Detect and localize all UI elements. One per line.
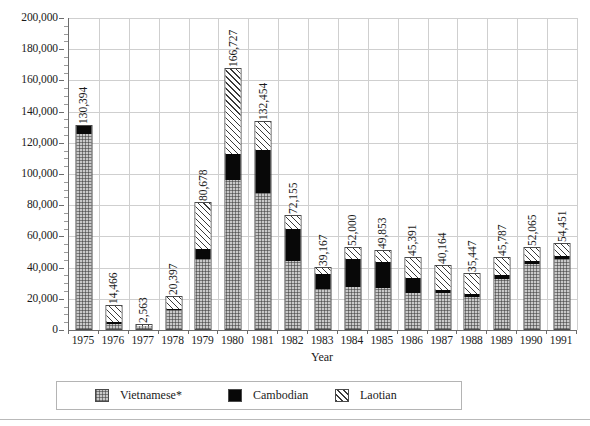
x-axis-tick-mark bbox=[516, 330, 517, 334]
y-axis-tick-label: 200,000 bbox=[21, 12, 58, 24]
bar-value-label: 49,853 bbox=[377, 218, 388, 250]
bar-segment-laotian[interactable] bbox=[345, 248, 360, 259]
bar-segment-vietnamese[interactable] bbox=[286, 261, 301, 329]
bar-segment-laotian[interactable] bbox=[525, 248, 540, 261]
bar-value-label: 166,727 bbox=[228, 30, 239, 67]
x-axis-tick-label: 1991 bbox=[550, 334, 573, 347]
bar-segment-vietnamese[interactable] bbox=[435, 293, 450, 330]
bar-segment-laotian[interactable] bbox=[375, 251, 390, 262]
bar-stack[interactable] bbox=[494, 257, 511, 330]
bar-segment-laotian[interactable] bbox=[106, 306, 121, 322]
bar-stack[interactable] bbox=[75, 125, 92, 330]
bar-segment-vietnamese[interactable] bbox=[196, 259, 211, 329]
bar-group[interactable] bbox=[428, 18, 458, 330]
bar-segment-vietnamese[interactable] bbox=[405, 293, 420, 329]
bar-stack[interactable] bbox=[255, 121, 272, 330]
plot-area: 130,39414,4662,56320,39780,678166,727132… bbox=[68, 18, 577, 331]
bar-segment-cambodian[interactable] bbox=[196, 249, 211, 259]
bar-segment-vietnamese[interactable] bbox=[136, 326, 151, 329]
bar-value-label: 2,563 bbox=[138, 297, 149, 323]
legend-item[interactable]: Vietnamese* bbox=[95, 389, 182, 402]
x-axis-tick-mark bbox=[456, 330, 457, 334]
y-axis-tick-label: 60,000 bbox=[27, 231, 58, 243]
legend-item[interactable]: Cambodian bbox=[228, 389, 308, 402]
bar-stack[interactable] bbox=[314, 267, 331, 330]
bar-segment-vietnamese[interactable] bbox=[375, 288, 390, 329]
bar-segment-vietnamese[interactable] bbox=[555, 259, 570, 330]
bar-segment-vietnamese[interactable] bbox=[465, 297, 480, 329]
bar-segment-vietnamese[interactable] bbox=[495, 279, 510, 329]
bar-segment-vietnamese[interactable] bbox=[226, 180, 241, 329]
legend-swatch-laotian bbox=[335, 389, 349, 402]
bar-stack[interactable] bbox=[344, 247, 361, 330]
bar-stack[interactable] bbox=[554, 243, 571, 330]
bar-segment-vietnamese[interactable] bbox=[106, 324, 121, 329]
bar-segment-cambodian[interactable] bbox=[315, 274, 330, 289]
bar-segment-vietnamese[interactable] bbox=[345, 287, 360, 329]
x-axis-tick-label: 1976 bbox=[102, 334, 125, 347]
bar-segment-laotian[interactable] bbox=[555, 244, 570, 256]
bar-segment-vietnamese[interactable] bbox=[315, 289, 330, 329]
bar-segment-laotian[interactable] bbox=[196, 203, 211, 249]
bar-stack[interactable] bbox=[285, 215, 302, 330]
bar-stack[interactable] bbox=[195, 202, 212, 330]
bar-value-label: 20,397 bbox=[168, 264, 179, 296]
bar-segment-laotian[interactable] bbox=[286, 216, 301, 229]
bar-segment-laotian[interactable] bbox=[226, 69, 241, 154]
gridline-vertical bbox=[577, 18, 578, 330]
bar-group[interactable] bbox=[457, 18, 487, 330]
x-axis-tick-mark bbox=[188, 330, 189, 334]
bar-group[interactable] bbox=[517, 18, 547, 330]
bar-segment-cambodian[interactable] bbox=[345, 259, 360, 286]
bar-stack[interactable] bbox=[434, 265, 451, 330]
bar-stack[interactable] bbox=[165, 296, 182, 330]
x-axis-tick-mark bbox=[576, 330, 577, 334]
bar-segment-cambodian[interactable] bbox=[286, 229, 301, 261]
bar-segment-laotian[interactable] bbox=[495, 258, 510, 276]
bar-value-label: 14,466 bbox=[108, 273, 119, 305]
x-axis-tick-mark bbox=[337, 330, 338, 334]
bar-group[interactable] bbox=[278, 18, 308, 330]
bar-segment-laotian[interactable] bbox=[405, 258, 420, 278]
bar-segment-vietnamese[interactable] bbox=[256, 193, 271, 329]
bar-group[interactable] bbox=[308, 18, 338, 330]
bar-value-label: 54,451 bbox=[557, 210, 568, 242]
x-axis-tick-label: 1983 bbox=[311, 334, 334, 347]
bar-segment-cambodian[interactable] bbox=[76, 126, 91, 134]
bar-segment-vietnamese[interactable] bbox=[76, 134, 91, 329]
x-axis-tick-mark bbox=[367, 330, 368, 334]
x-axis-tick-mark bbox=[486, 330, 487, 334]
bar-stack[interactable] bbox=[105, 305, 122, 330]
bar-segment-vietnamese[interactable] bbox=[166, 310, 181, 329]
bar-stack[interactable] bbox=[404, 257, 421, 330]
bar-group[interactable] bbox=[129, 18, 159, 330]
x-axis-tick-mark bbox=[277, 330, 278, 334]
bar-group[interactable] bbox=[398, 18, 428, 330]
bar-segment-laotian[interactable] bbox=[166, 297, 181, 308]
bar-segment-cambodian[interactable] bbox=[405, 278, 420, 293]
bar-group[interactable] bbox=[248, 18, 278, 330]
y-axis-tick-label: 20,000 bbox=[27, 293, 58, 305]
bar-value-label: 132,454 bbox=[258, 83, 269, 120]
bar-segment-laotian[interactable] bbox=[435, 266, 450, 289]
bar-stack[interactable] bbox=[464, 273, 481, 330]
bar-group[interactable] bbox=[368, 18, 398, 330]
bar-segment-laotian[interactable] bbox=[465, 274, 480, 294]
bar-segment-vietnamese[interactable] bbox=[525, 264, 540, 329]
bar-segment-laotian[interactable] bbox=[256, 122, 271, 150]
bar-segment-cambodian[interactable] bbox=[226, 154, 241, 181]
bar-segment-cambodian[interactable] bbox=[256, 150, 271, 193]
chart-legend: Vietnamese*CambodianLaotian bbox=[56, 381, 462, 410]
bar-stack[interactable] bbox=[374, 250, 391, 330]
bar-stack[interactable] bbox=[135, 324, 152, 330]
y-axis-tick-mark bbox=[59, 80, 64, 81]
bar-group[interactable] bbox=[487, 18, 517, 330]
bar-segment-cambodian[interactable] bbox=[375, 262, 390, 288]
y-axis-tick-label: 120,000 bbox=[21, 137, 58, 149]
bar-stack[interactable] bbox=[225, 68, 242, 330]
bar-group[interactable] bbox=[69, 18, 99, 330]
legend-item[interactable]: Laotian bbox=[335, 389, 397, 402]
bar-group[interactable] bbox=[338, 18, 368, 330]
bar-group[interactable] bbox=[547, 18, 577, 330]
bar-stack[interactable] bbox=[524, 247, 541, 330]
